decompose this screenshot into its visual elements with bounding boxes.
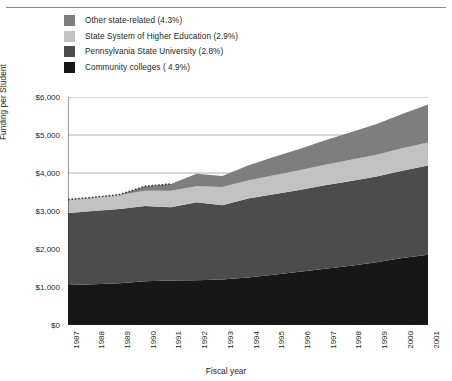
x-axis-title: Fiscal year — [0, 366, 452, 376]
x-tick-label: 1997 — [329, 331, 338, 349]
x-tick-label: 1990 — [149, 331, 158, 349]
x-tick-label: 1989 — [123, 331, 132, 349]
x-tick-label: 2000 — [406, 331, 415, 349]
x-tick-label: 1991 — [174, 331, 183, 349]
x-tick-label: 1988 — [97, 331, 106, 349]
x-tick-label: 1992 — [200, 331, 209, 349]
x-tick-label: 1993 — [226, 331, 235, 349]
x-tick-label: 1995 — [277, 331, 286, 349]
x-tick-label: 1998 — [354, 331, 363, 349]
x-tick-label: 1999 — [380, 331, 389, 349]
x-tick-label: 2001 — [432, 331, 441, 349]
x-tick-label: 1994 — [252, 331, 261, 349]
x-tick-label: 1987 — [72, 331, 81, 349]
x-axis-tick-labels: 1987198819891990199119921993199419951996… — [0, 0, 452, 381]
x-tick-label: 1996 — [303, 331, 312, 349]
